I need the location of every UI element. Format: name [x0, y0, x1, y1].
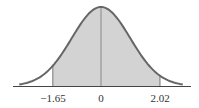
normal-curve-figure: −1.65 0 2.02 [0, 0, 199, 108]
shaded-area [53, 7, 160, 86]
tick-label-left: −1.65 [40, 92, 65, 104]
tick-label-right: 2.02 [150, 92, 169, 104]
tick-label-center: 0 [98, 92, 104, 104]
